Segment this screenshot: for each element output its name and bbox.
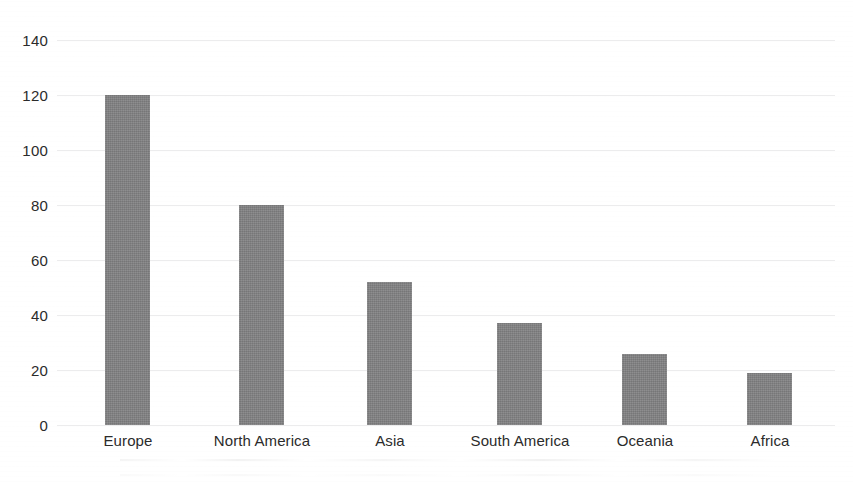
gridline bbox=[57, 95, 835, 96]
gridline bbox=[57, 425, 835, 426]
bar[interactable] bbox=[622, 354, 667, 426]
scan-artifact-line-upper bbox=[120, 459, 813, 461]
bar-slot bbox=[622, 354, 667, 426]
bar-chart: 140120100806040200 EuropeNorth AmericaAs… bbox=[0, 0, 853, 482]
gridline bbox=[57, 370, 835, 371]
bar-slot bbox=[105, 95, 150, 425]
bar[interactable] bbox=[105, 95, 150, 425]
bar[interactable] bbox=[367, 282, 412, 425]
y-axis: 140120100806040200 bbox=[0, 40, 48, 425]
x-axis-tick-label: Oceania bbox=[617, 432, 674, 449]
x-axis-tick-label: North America bbox=[214, 432, 310, 449]
y-axis-tick-label: 60 bbox=[0, 252, 48, 269]
x-axis: EuropeNorth AmericaAsiaSouth AmericaOcea… bbox=[0, 432, 853, 456]
bar[interactable] bbox=[747, 373, 792, 425]
bar-slot bbox=[747, 373, 792, 425]
gridline bbox=[57, 40, 835, 41]
x-axis-tick-label: South America bbox=[471, 432, 570, 449]
x-axis-tick-label: Asia bbox=[375, 432, 405, 449]
x-axis-tick-label: Africa bbox=[751, 432, 790, 449]
bar[interactable] bbox=[497, 323, 542, 425]
bar-slot bbox=[367, 282, 412, 425]
gridline bbox=[57, 205, 835, 206]
y-axis-tick-label: 80 bbox=[0, 197, 48, 214]
y-axis-tick-label: 140 bbox=[0, 32, 48, 49]
bar-slot bbox=[497, 323, 542, 425]
gridline bbox=[57, 260, 835, 261]
gridline bbox=[57, 150, 835, 151]
y-axis-tick-label: 0 bbox=[0, 417, 48, 434]
plot-area bbox=[57, 40, 835, 425]
y-axis-tick-label: 20 bbox=[0, 362, 48, 379]
bar-slot bbox=[239, 205, 284, 425]
x-axis-tick-label: Europe bbox=[104, 432, 153, 449]
y-axis-tick-label: 100 bbox=[0, 142, 48, 159]
y-axis-tick-label: 120 bbox=[0, 87, 48, 104]
bar[interactable] bbox=[239, 205, 284, 425]
gridline bbox=[57, 315, 835, 316]
scan-artifact-line-lower bbox=[120, 474, 813, 476]
y-axis-tick-label: 40 bbox=[0, 307, 48, 324]
